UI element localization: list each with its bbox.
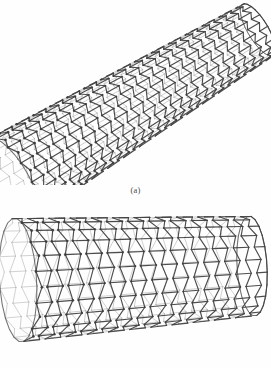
carbon-bond <box>150 305 166 306</box>
carbon-bond <box>95 311 103 322</box>
carbon-atom <box>102 147 104 149</box>
carbon-atom <box>78 151 80 153</box>
carbon-atom <box>110 131 112 133</box>
carbon-bond <box>97 85 106 86</box>
carbon-bond <box>195 61 196 70</box>
carbon-atom <box>66 240 69 243</box>
carbon-atom <box>59 332 62 335</box>
carbon-atom <box>123 308 125 310</box>
carbon-atom <box>126 111 128 113</box>
carbon-atom <box>45 111 47 113</box>
carbon-bond <box>37 230 46 241</box>
carbon-atom <box>35 130 38 133</box>
carbon-bond <box>177 76 178 85</box>
carbon-bond <box>48 313 64 314</box>
carbon-atom <box>89 172 91 174</box>
carbon-atom <box>227 247 228 248</box>
carbon-bond <box>65 283 81 284</box>
carbon-bond <box>43 270 47 286</box>
carbon-bond <box>170 221 179 228</box>
carbon-bond <box>199 90 200 96</box>
carbon-bond <box>185 221 186 228</box>
carbon-atom <box>108 77 110 79</box>
carbon-atom <box>44 315 47 318</box>
carbon-bond <box>86 240 88 253</box>
carbon-bond <box>170 98 182 105</box>
carbon-bond <box>255 285 261 297</box>
carbon-atom <box>56 269 59 272</box>
carbon-bond <box>121 294 137 295</box>
carbon-atom <box>85 103 87 105</box>
carbon-atom <box>42 173 45 176</box>
carbon-bond <box>80 94 89 95</box>
carbon-bond <box>4 231 6 242</box>
carbon-atom <box>175 119 177 121</box>
carbon-atom <box>132 137 134 139</box>
carbon-bond <box>248 226 256 235</box>
carbon-atom <box>142 111 144 113</box>
carbon-atom <box>11 128 14 131</box>
carbon-atom <box>109 282 111 284</box>
carbon-bond <box>163 228 171 238</box>
carbon-bond <box>119 91 120 101</box>
carbon-bond <box>133 229 136 239</box>
carbon-atom <box>36 221 39 224</box>
carbon-bond <box>12 242 16 256</box>
carbon-bond <box>178 238 186 250</box>
carbon-atom <box>126 121 128 123</box>
carbon-bond <box>193 38 201 40</box>
carbon-bond <box>179 312 195 314</box>
carbon-atom <box>129 238 131 240</box>
carbon-bond <box>190 78 191 87</box>
carbon-atom <box>125 73 127 75</box>
carbon-atom <box>121 76 123 78</box>
carbon-atom <box>72 299 75 302</box>
carbon-atom <box>115 95 117 97</box>
carbon-atom <box>133 127 135 129</box>
carbon-atom <box>96 160 98 162</box>
carbon-bond <box>211 220 213 227</box>
carbon-atom <box>118 85 120 87</box>
carbon-bond <box>86 159 87 169</box>
carbon-bond <box>112 229 115 239</box>
carbon-bond <box>13 303 21 316</box>
carbon-atom <box>151 67 153 69</box>
carbon-atom <box>96 328 98 330</box>
carbon-atom <box>71 268 74 271</box>
carbon-bond <box>241 236 249 247</box>
carbon-atom <box>92 91 94 93</box>
carbon-atom <box>100 158 102 160</box>
carbon-atom <box>58 175 61 178</box>
carbon-atom <box>33 142 36 145</box>
carbon-bond <box>147 221 149 228</box>
carbon-bond <box>173 277 189 278</box>
carbon-bond <box>260 26 268 31</box>
carbon-atom <box>161 292 163 294</box>
carbon-atom <box>197 49 199 51</box>
carbon-bond <box>149 251 165 252</box>
carbon-atom <box>23 137 26 140</box>
carbon-atom <box>81 312 84 315</box>
carbon-atom <box>142 64 144 66</box>
carbon-bond <box>86 253 102 254</box>
carbon-bond <box>147 50 159 57</box>
carbon-atom <box>77 299 80 302</box>
carbon-bond <box>31 231 32 242</box>
carbon-bond <box>235 59 236 66</box>
carbon-atom <box>62 161 65 164</box>
carbon-bond <box>149 78 150 87</box>
carbon-atom <box>128 308 130 310</box>
carbon-atom <box>193 236 195 238</box>
carbon-bond <box>185 228 194 238</box>
carbon-atom <box>94 321 96 323</box>
carbon-bond <box>246 285 262 286</box>
carbon-atom <box>159 322 161 324</box>
carbon-atom <box>120 93 122 95</box>
carbon-atom <box>110 320 112 322</box>
carbon-bond <box>0 256 15 257</box>
carbon-bond <box>170 250 177 264</box>
carbon-bond <box>131 280 147 281</box>
carbon-atom <box>106 134 108 136</box>
carbon-bond <box>104 142 106 151</box>
carbon-bond <box>107 222 116 229</box>
